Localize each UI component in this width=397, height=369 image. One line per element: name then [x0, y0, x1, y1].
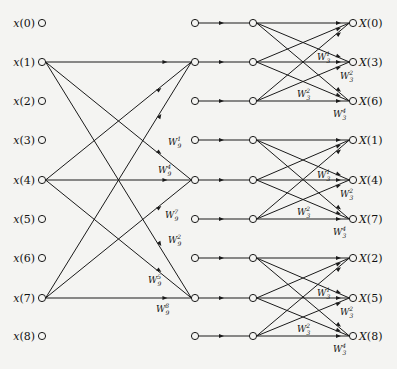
twiddle-label: W23: [297, 322, 310, 336]
arrow-icon: [336, 302, 341, 306]
node: [191, 97, 198, 104]
arrow-icon: [219, 99, 224, 103]
output-label: X(2): [358, 252, 382, 265]
twiddle-label: W23: [297, 87, 310, 101]
arrow-icon: [219, 60, 224, 64]
output-label: X(0): [358, 17, 382, 30]
arrow-icon: [336, 205, 341, 210]
twiddle-label: W13: [317, 50, 330, 64]
input-label: x(4): [13, 174, 35, 187]
node: [38, 332, 45, 339]
node: [349, 332, 356, 339]
twiddle-label: W43: [333, 225, 346, 239]
node: [191, 136, 198, 143]
input-label: x(0): [13, 17, 35, 30]
twiddle-label: W19: [168, 135, 181, 149]
twiddle-label: W43: [333, 342, 346, 356]
node: [249, 136, 256, 143]
node: [38, 136, 45, 143]
labels: x(0)x(1)x(2)x(3)x(4)x(5)x(6)x(7)x(8)X(0)…: [13, 17, 382, 356]
node: [349, 294, 356, 301]
input-label: x(1): [13, 56, 35, 69]
twiddle-label: W43: [333, 107, 346, 121]
arrow-icon: [336, 185, 341, 189]
output-label: X(4): [358, 174, 382, 187]
arrow-icon: [336, 178, 341, 182]
node: [191, 176, 198, 183]
arrow-icon: [336, 99, 341, 103]
flow-graph: x(0)x(1)x(2)x(3)x(4)x(5)x(6)x(7)x(8)X(0)…: [0, 0, 397, 369]
arrow-icon: [336, 171, 341, 175]
node: [249, 294, 256, 301]
arrow-icon: [219, 256, 224, 260]
node: [38, 19, 45, 26]
arrow-icon: [336, 296, 341, 300]
arrow-icon: [336, 256, 341, 260]
node: [249, 215, 256, 222]
arrow-icon: [162, 60, 167, 64]
arrow-icon: [219, 138, 224, 142]
arrow-icon: [336, 217, 341, 221]
node: [38, 176, 45, 183]
input-label: x(3): [13, 134, 35, 147]
node: [349, 136, 356, 143]
arrow-icon: [336, 54, 341, 58]
arrow-icon: [219, 334, 224, 338]
arrow-icon: [336, 289, 341, 293]
input-label: x(7): [13, 292, 35, 305]
node: [349, 254, 356, 261]
twiddle-label: W23: [297, 205, 310, 219]
input-label: x(6): [13, 252, 35, 265]
twiddle-label: W79: [165, 208, 178, 222]
arrow-icon: [336, 60, 341, 64]
node: [191, 215, 198, 222]
node: [191, 19, 198, 26]
node: [191, 58, 198, 65]
arrow-icon: [162, 178, 167, 182]
node: [38, 215, 45, 222]
arrow-icon: [336, 21, 341, 25]
twiddle-label: W13: [317, 168, 330, 182]
twiddle-label: W23: [340, 187, 353, 201]
arrow-icon: [336, 67, 341, 71]
arrow-icon: [219, 21, 224, 25]
output-label: X(5): [358, 292, 382, 305]
node: [249, 332, 256, 339]
arrow-icon: [219, 178, 224, 182]
arrow-icon: [336, 32, 341, 37]
output-label: X(6): [358, 95, 382, 108]
node: [191, 254, 198, 261]
output-label: X(8): [358, 330, 382, 343]
arrow-icon: [336, 267, 341, 272]
output-label: X(1): [358, 134, 382, 147]
input-label: x(2): [13, 95, 35, 108]
twiddle-label: W29: [168, 233, 181, 247]
node: [349, 58, 356, 65]
arrow-icon: [219, 296, 224, 300]
arrow-icon: [336, 322, 341, 327]
arrow-icon: [336, 87, 341, 92]
input-label: x(8): [13, 330, 35, 343]
twiddle-label: W13: [317, 286, 330, 300]
node: [249, 254, 256, 261]
node: [349, 215, 356, 222]
node: [191, 294, 198, 301]
input-label: x(5): [13, 213, 35, 226]
node: [349, 97, 356, 104]
twiddle-label: W23: [340, 69, 353, 83]
output-label: X(3): [358, 56, 382, 69]
arrow-icon: [336, 138, 341, 142]
twiddle-label: W89: [156, 302, 169, 316]
node: [38, 58, 45, 65]
node: [349, 176, 356, 183]
node: [38, 254, 45, 261]
twiddle-label: W49: [158, 163, 171, 177]
node: [38, 97, 45, 104]
node: [249, 97, 256, 104]
node: [349, 19, 356, 26]
twiddle-label: W59: [148, 273, 161, 287]
node: [249, 176, 256, 183]
node: [249, 58, 256, 65]
node: [38, 294, 45, 301]
twiddle-label: W23: [340, 305, 353, 319]
